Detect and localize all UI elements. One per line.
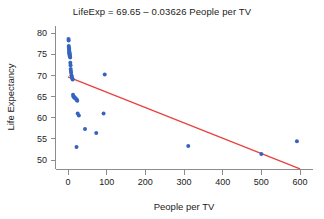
x-tick-label: 100	[99, 177, 114, 187]
x-tick-label: 600	[292, 177, 307, 187]
y-tick-label: 75	[37, 49, 47, 59]
x-tick-label: 300	[176, 177, 191, 187]
data-point	[67, 39, 71, 43]
y-tick-label: 55	[37, 134, 47, 144]
x-axis-tick-labels: 0100200300400500600	[65, 177, 307, 187]
x-axis-title: People per TV	[154, 201, 215, 212]
data-point	[103, 72, 107, 76]
x-tick-label: 200	[138, 177, 153, 187]
scatter-plot-figure: LifeExp = 69.65 – 0.03626 People per TV …	[0, 0, 324, 219]
data-point	[77, 114, 81, 118]
y-tick-label: 80	[37, 28, 47, 38]
data-point	[94, 131, 98, 135]
y-tick-label: 50	[37, 155, 47, 165]
x-tick-label: 400	[215, 177, 230, 187]
y-axis-ticks	[51, 33, 56, 160]
data-point	[102, 111, 106, 115]
data-point	[83, 127, 87, 131]
x-axis-ticks	[68, 170, 300, 175]
data-point	[186, 144, 190, 148]
y-axis-tick-labels: 50556065707580	[37, 28, 47, 165]
data-points	[67, 37, 299, 156]
y-tick-label: 65	[37, 92, 47, 102]
regression-line	[68, 77, 300, 169]
data-point	[75, 145, 79, 149]
data-point	[75, 99, 79, 103]
y-tick-label: 70	[37, 71, 47, 81]
data-point	[69, 63, 73, 67]
data-point	[68, 56, 72, 60]
data-point	[71, 78, 75, 82]
data-point	[295, 139, 299, 143]
data-point	[259, 152, 263, 156]
plot-canvas: 0100200300400500600 50556065707580 Peopl…	[0, 0, 324, 219]
y-tick-label: 60	[37, 113, 47, 123]
x-tick-label: 0	[65, 177, 70, 187]
x-tick-label: 500	[254, 177, 269, 187]
y-axis-title: Life Expectancy	[5, 63, 16, 130]
